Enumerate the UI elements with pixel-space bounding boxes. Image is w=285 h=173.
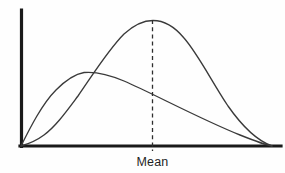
chart-canvas: Mean <box>0 0 285 173</box>
mean-label: Mean <box>136 155 168 169</box>
distribution-chart: Mean <box>0 0 285 173</box>
curve-symmetric <box>21 21 272 147</box>
curve-right-skewed <box>21 72 272 146</box>
